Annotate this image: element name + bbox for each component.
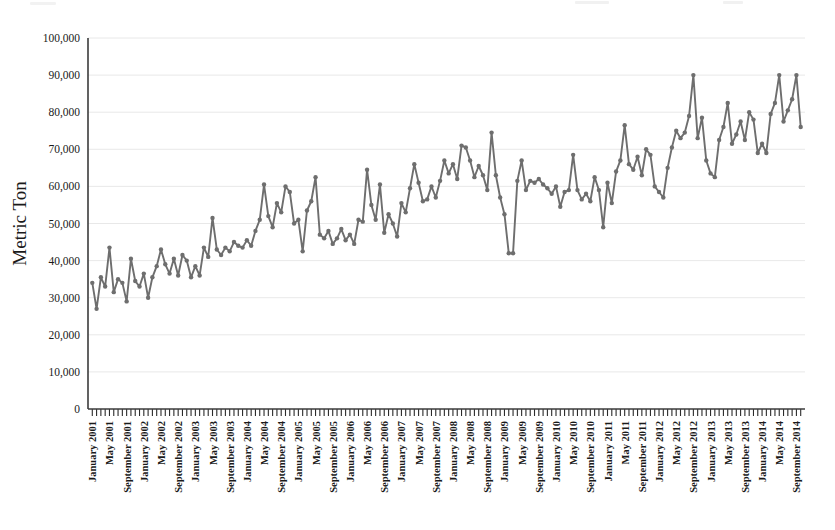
- data-point: [223, 245, 227, 249]
- data-point: [262, 182, 266, 186]
- data-point: [185, 258, 189, 262]
- data-point: [528, 179, 532, 183]
- data-point: [416, 180, 420, 184]
- data-point: [116, 277, 120, 281]
- x-axis-tick-label: May 2013: [723, 421, 734, 465]
- data-point: [567, 188, 571, 192]
- x-axis-tick-label: September 2004: [276, 420, 287, 493]
- data-point: [103, 284, 107, 288]
- data-point: [485, 188, 489, 192]
- x-axis-tick-label: September 2007: [431, 421, 442, 493]
- data-point: [279, 210, 283, 214]
- data-point: [640, 173, 644, 177]
- data-point: [112, 290, 116, 294]
- data-point: [232, 240, 236, 244]
- data-point: [408, 186, 412, 190]
- data-point: [193, 264, 197, 268]
- data-point: [266, 214, 270, 218]
- chart-canvas: 010,00020,00030,00040,00050,00060,00070,…: [0, 0, 835, 530]
- x-axis-tick-label: May 2012: [671, 421, 682, 465]
- data-point: [648, 153, 652, 157]
- data-point: [318, 232, 322, 236]
- data-point: [154, 264, 158, 268]
- data-point: [438, 179, 442, 183]
- data-point: [146, 296, 150, 300]
- data-point: [618, 158, 622, 162]
- x-axis-tick-label: January 2009: [499, 421, 510, 482]
- data-point: [635, 155, 639, 159]
- data-point: [661, 195, 665, 199]
- data-point: [610, 201, 614, 205]
- data-point: [665, 166, 669, 170]
- x-axis-tick-label: September 2002: [173, 421, 184, 493]
- data-point: [94, 307, 98, 311]
- x-axis-tick-label: January 2011: [603, 421, 614, 481]
- data-point: [545, 186, 549, 190]
- data-point: [678, 136, 682, 140]
- x-axis-tick-label: September 2006: [379, 421, 390, 493]
- data-point: [90, 281, 94, 285]
- data-point: [730, 142, 734, 146]
- data-point: [657, 190, 661, 194]
- data-point: [150, 275, 154, 279]
- y-axis-tick-label: 20,000: [48, 329, 80, 342]
- x-axis-tick-label: September 2010: [585, 421, 596, 493]
- x-axis-tick-label: September 2001: [122, 421, 133, 493]
- data-point: [258, 218, 262, 222]
- data-point: [429, 184, 433, 188]
- data-point: [515, 179, 519, 183]
- data-point: [734, 132, 738, 136]
- data-point: [275, 201, 279, 205]
- data-point: [781, 119, 785, 123]
- y-axis-tick-label: 70,000: [48, 143, 80, 156]
- x-axis-tick-label: January 2010: [551, 421, 562, 482]
- data-point: [189, 275, 193, 279]
- x-axis-tick-label: September 2009: [534, 421, 545, 493]
- x-axis-tick-label: September 2013: [740, 421, 751, 493]
- data-point: [176, 273, 180, 277]
- data-point: [790, 97, 794, 101]
- x-axis-tick-label: May 2008: [465, 421, 476, 465]
- data-point: [751, 117, 755, 121]
- data-point: [695, 136, 699, 140]
- data-point: [382, 231, 386, 235]
- data-point: [756, 151, 760, 155]
- data-point: [219, 253, 223, 257]
- y-axis-tick-label: 60,000: [48, 180, 80, 193]
- y-axis-ticks: 010,00020,00030,00040,00050,00060,00070,…: [43, 32, 81, 415]
- x-axis-tick-label: January 2006: [345, 421, 356, 482]
- data-point: [240, 245, 244, 249]
- data-point: [464, 145, 468, 149]
- x-axis-tick-label: January 2004: [242, 420, 253, 482]
- data-point: [197, 273, 201, 277]
- data-point: [622, 123, 626, 127]
- data-point: [369, 203, 373, 207]
- data-point: [352, 242, 356, 246]
- data-point: [494, 173, 498, 177]
- data-point: [442, 158, 446, 162]
- x-axis-tick-label: January 2002: [139, 421, 150, 482]
- edge-artifact-mark: [575, 1, 609, 4]
- data-point: [777, 73, 781, 77]
- data-point: [588, 199, 592, 203]
- data-point: [421, 199, 425, 203]
- data-point: [292, 221, 296, 225]
- data-point: [300, 249, 304, 253]
- data-point: [721, 125, 725, 129]
- data-point: [541, 182, 545, 186]
- data-point: [537, 177, 541, 181]
- data-point: [210, 216, 214, 220]
- data-point: [167, 271, 171, 275]
- data-point: [592, 175, 596, 179]
- data-point: [764, 151, 768, 155]
- data-point: [159, 247, 163, 251]
- y-axis-tick-label: 10,000: [48, 366, 80, 379]
- x-axis-tick-label: May 2004: [259, 420, 270, 465]
- x-axis-tick-label: January 2003: [190, 421, 201, 482]
- x-axis-tick-label: September 2011: [637, 421, 648, 492]
- data-point: [296, 218, 300, 222]
- data-point: [481, 173, 485, 177]
- data-point: [511, 251, 515, 255]
- data-point: [227, 249, 231, 253]
- data-point: [446, 171, 450, 175]
